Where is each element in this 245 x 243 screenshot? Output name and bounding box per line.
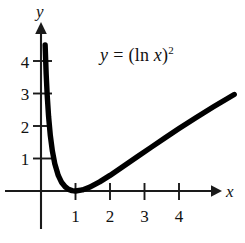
plot-canvas bbox=[0, 0, 245, 243]
equation-rhs-open: (ln bbox=[129, 45, 154, 65]
graph-figure: y x 1 2 3 4 1 2 3 4 y=(ln x)2 bbox=[0, 0, 245, 243]
equation-annotation: y=(ln x)2 bbox=[100, 44, 174, 66]
equation-lhs: y bbox=[100, 45, 108, 65]
equation-rhs-variable: x bbox=[154, 45, 162, 65]
y-axis-arrowhead bbox=[35, 22, 47, 34]
equation-exponent: 2 bbox=[168, 44, 174, 56]
curve-ln-x-squared bbox=[45, 45, 234, 191]
x-axis-arrowhead bbox=[211, 185, 222, 197]
equation-operator: = bbox=[113, 45, 123, 65]
